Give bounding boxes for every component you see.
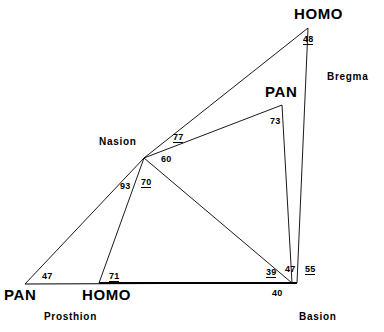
angle-value-73-1: 73: [270, 117, 280, 126]
species-label-pan-middle: PAN: [265, 84, 297, 99]
diagram-lines: [0, 0, 384, 332]
angle-value-55-11: 55: [305, 265, 315, 275]
angle-value-70-5: 70: [141, 178, 151, 188]
landmark-label-bregma: Bregma: [327, 72, 368, 82]
pan-bregma-to-basion: [282, 105, 292, 283]
angle-value-71-7: 71: [109, 272, 119, 282]
pan-nasion-to-prosthion: [25, 158, 144, 284]
angle-value-39-8: 39: [266, 268, 276, 278]
angle-value-47-10: 47: [285, 265, 295, 274]
angle-value-48-0: 48: [303, 35, 313, 45]
angle-value-77-2: 77: [173, 133, 183, 143]
diagram-canvas: HOMOPANPANHOMONasionBregmaBasionProsthio…: [0, 0, 384, 332]
angle-value-60-3: 60: [161, 155, 171, 164]
species-label-pan-left: PAN: [4, 287, 36, 302]
angle-value-93-4: 93: [120, 182, 130, 191]
landmark-label-nasion: Nasion: [99, 137, 137, 147]
landmark-label-basion: Basion: [299, 312, 337, 322]
pan-nasion-to-basion: [144, 158, 292, 283]
homo-nasion-to-prosthion: [99, 158, 144, 283]
pan-nasion-to-bregma: [144, 105, 282, 158]
angle-value-40-9: 40: [272, 289, 282, 298]
species-label-homo-top: HOMO: [294, 6, 343, 21]
landmark-label-prosthion: Prosthion: [44, 312, 97, 322]
homo-bregma-to-basion: [297, 28, 308, 283]
species-label-homo-bottom: HOMO: [82, 287, 131, 302]
angle-value-47-6: 47: [42, 272, 52, 281]
